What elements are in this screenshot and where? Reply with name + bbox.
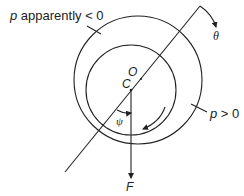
p-positive-label: p > 0 <box>210 107 239 120</box>
journal-bearing-diagram <box>0 0 244 196</box>
force-label: F <box>126 181 133 193</box>
theta-label: θ <box>213 30 219 42</box>
p-negative-text: apparently < 0 <box>17 8 103 23</box>
psi-arc <box>117 110 131 113</box>
center-c-label: C <box>122 78 131 90</box>
p-positive-leader <box>191 104 207 112</box>
p-positive-text: > 0 <box>217 106 239 121</box>
line-of-centers <box>65 6 200 172</box>
center-o-point <box>140 78 142 80</box>
rotation-arrow <box>143 107 165 129</box>
theta-arrow <box>200 6 216 27</box>
p-negative-label: p apparently < 0 <box>10 9 104 22</box>
outer-circle <box>74 16 202 144</box>
psi-label: ψ <box>116 116 123 127</box>
